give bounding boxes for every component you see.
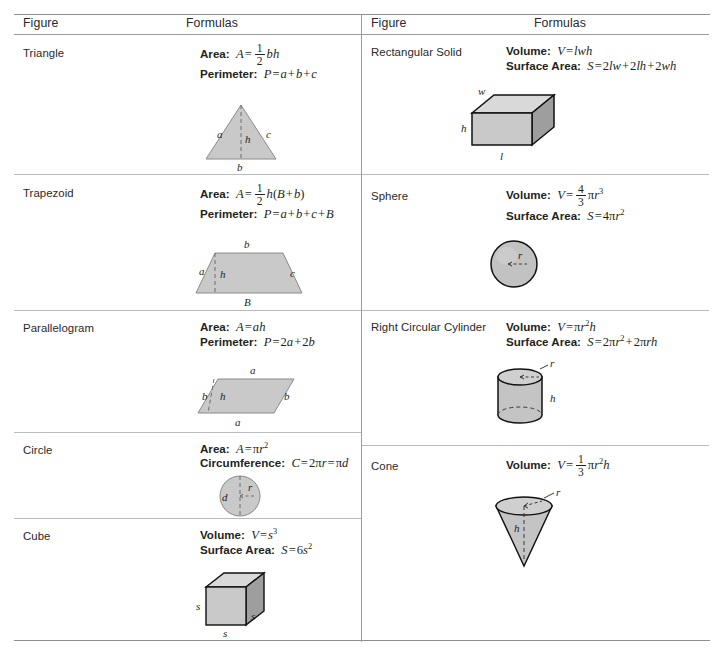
formula-triangle-area: Area: A=12bh: [200, 42, 279, 67]
table-row-parallelogram: Parallelogram Area: A=ah Perimeter: P=2a…: [14, 311, 361, 433]
svg-text:h: h: [245, 133, 251, 145]
figure-name-triangle: Triangle: [23, 47, 64, 59]
svg-text:c: c: [266, 128, 271, 140]
svg-text:l: l: [500, 150, 503, 162]
figure-name-circle: Circle: [23, 444, 52, 456]
formula-cube-surface-area: Surface Area: S=6s2: [200, 542, 312, 558]
svg-text:s: s: [223, 627, 227, 639]
table-row-triangle: Triangle Area: A=12bh Perimeter: P=a+b+c…: [14, 35, 361, 175]
formula-cone-volume: Volume: V=13πr2h: [506, 453, 610, 478]
figure-name-rectangular-solid: Rectangular Solid: [371, 46, 462, 58]
svg-text:w: w: [478, 85, 486, 97]
svg-text:b: b: [284, 390, 290, 402]
figure-name-cone: Cone: [371, 460, 398, 472]
svg-text:r: r: [550, 359, 555, 369]
table-row-cube: Cube Volume: V=s3 Surface Area: S=6s2 s …: [14, 519, 361, 642]
right-column: Figure Formulas Rectangular Solid Volume…: [362, 15, 709, 642]
left-column: Figure Formulas Triangle Area: A=12bh Pe…: [14, 15, 361, 642]
formula-cube-volume: Volume: V=s3: [200, 527, 277, 543]
svg-text:a: a: [217, 128, 223, 140]
formula-triangle-perimeter: Perimeter: P=a+b+c: [200, 67, 317, 82]
svg-text:h: h: [461, 122, 467, 134]
table-row-rectangular-solid: Rectangular Solid Volume: V=lwh Surface …: [362, 35, 709, 175]
svg-text:r: r: [248, 481, 253, 493]
left-header-row: Figure Formulas: [14, 15, 361, 35]
table-row-sphere: Sphere Volume: V=43πr3 Surface Area: S=4…: [362, 175, 709, 311]
formula-circle-area: Area: A=πr2: [200, 441, 268, 457]
figure-name-cube: Cube: [23, 530, 50, 542]
geometry-formula-table: Figure Formulas Triangle Area: A=12bh Pe…: [14, 14, 710, 641]
svg-text:r: r: [556, 488, 561, 498]
svg-text:h: h: [514, 522, 520, 534]
svg-text:c: c: [290, 267, 295, 279]
header-formulas: Formulas: [186, 16, 238, 30]
table-row-cone: Cone Volume: V=13πr2h r h: [362, 446, 709, 642]
diagram-parallelogram: a b h b a: [178, 361, 318, 429]
svg-text:s: s: [196, 600, 200, 612]
svg-text:a: a: [235, 416, 241, 428]
svg-text:h: h: [550, 392, 556, 404]
table-row-cylinder: Right Circular Cylinder Volume: V=πr2h S…: [362, 311, 709, 446]
diagram-cube: s s s: [184, 567, 294, 639]
formula-sphere-surface-area: Surface Area: S=4πr2: [506, 208, 625, 224]
diagram-cylinder: r h: [484, 359, 594, 439]
header-figure-right: Figure: [371, 16, 406, 30]
svg-text:s: s: [251, 610, 255, 622]
svg-text:r: r: [518, 249, 523, 261]
figure-name-parallelogram: Parallelogram: [23, 322, 94, 334]
formula-parallelogram-area: Area: A=ah: [200, 320, 265, 335]
figure-name-sphere: Sphere: [371, 190, 408, 202]
formula-sphere-volume: Volume: V=43πr3: [506, 183, 603, 208]
svg-text:b: b: [202, 390, 208, 402]
svg-text:d: d: [222, 491, 228, 503]
header-figure: Figure: [23, 16, 58, 30]
svg-text:b: b: [244, 238, 250, 250]
formula-trapezoid-perimeter: Perimeter: P=a+b+c+B: [200, 207, 334, 222]
diagram-cone: r h: [484, 488, 594, 578]
svg-text:a: a: [250, 364, 256, 376]
svg-text:b: b: [237, 161, 243, 173]
formula-circle-circumference: Circumference: C=2πr=πd: [200, 456, 348, 471]
svg-text:B: B: [244, 296, 251, 308]
diagram-triangle: a h c b: [192, 97, 302, 173]
diagram-trapezoid: b a h c B: [178, 235, 318, 309]
right-header-row: Figure Formulas: [362, 15, 709, 35]
diagram-sphere: r: [482, 237, 562, 293]
figure-name-cylinder: Right Circular Cylinder: [371, 321, 486, 333]
formula-rect-solid-volume: Volume: V=lwh: [506, 44, 592, 59]
formula-parallelogram-perimeter: Perimeter: P=2a+2b: [200, 335, 315, 350]
svg-text:h: h: [220, 390, 226, 402]
formula-trapezoid-area: Area: A=12h(B+b): [200, 182, 304, 207]
formula-rect-solid-surface-area: Surface Area: S=2lw+2lh+2wh: [506, 59, 676, 74]
table-row-trapezoid: Trapezoid Area: A=12h(B+b) Perimeter: P=…: [14, 175, 361, 311]
svg-text:a: a: [199, 265, 205, 277]
formula-cylinder-volume: Volume: V=πr2h: [506, 319, 596, 335]
formula-cylinder-surface-area: Surface Area: S=2πr2+2πrh: [506, 334, 657, 350]
table-row-circle: Circle Area: A=πr2 Circumference: C=2πr=…: [14, 433, 361, 519]
header-formulas-right: Formulas: [534, 16, 586, 30]
svg-text:h: h: [220, 268, 226, 280]
figure-name-trapezoid: Trapezoid: [23, 187, 74, 199]
formula-reference-sheet: Figure Formulas Triangle Area: A=12bh Pe…: [0, 0, 722, 660]
diagram-rectangular-solid: w h l: [450, 85, 580, 165]
diagram-circle: d r: [198, 475, 284, 519]
